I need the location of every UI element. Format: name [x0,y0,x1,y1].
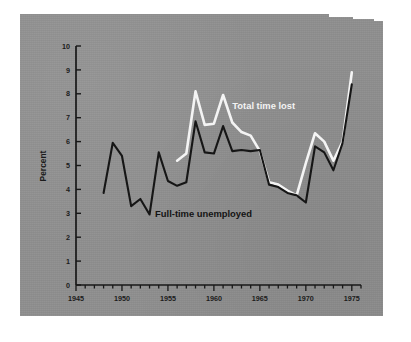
x-axis-tick-labels: 1945195019551960196519701975 [68,294,360,303]
series-line-total-time-lost [177,72,352,195]
y-axis-tick-label: 1 [66,257,70,266]
line-chart: 012345678910 194519501955196019651970197… [20,14,383,316]
y-axis-tick-label: 9 [66,66,70,75]
y-axis-tick-label: 3 [66,209,70,218]
x-axis-ticks [76,285,361,291]
x-axis-tick-label: 1955 [160,294,176,303]
figure-stage: 012345678910 194519501955196019651970197… [0,0,411,342]
annotation-total-time-lost: Total time lost [232,100,295,111]
x-axis-tick-label: 1975 [344,294,360,303]
series-line-full-time-unemployed [104,84,352,214]
y-axis-tick-label: 6 [66,137,70,146]
x-axis-tick-label: 1945 [68,294,84,303]
y-axis-tick-label: 5 [66,161,70,170]
y-axis-tick-label: 8 [66,89,70,98]
y-axis-tick-label: 2 [66,233,70,242]
y-axis-tick-label: 10 [62,42,70,51]
photograph-panel: 012345678910 194519501955196019651970197… [20,14,383,316]
y-axis-tick-label: 4 [66,185,70,194]
x-axis-tick-label: 1965 [252,294,268,303]
y-axis-tick-label: 0 [66,281,70,290]
x-axis-tick-label: 1960 [206,294,222,303]
x-axis-tick-label: 1970 [298,294,314,303]
y-axis-tick-labels: 012345678910 [62,42,70,290]
y-axis-title: Percent [38,150,48,181]
y-axis-tick-label: 7 [66,113,70,122]
annotation-full-time-unemployed: Full-time unemployed [155,208,252,219]
x-axis-tick-label: 1950 [114,294,130,303]
